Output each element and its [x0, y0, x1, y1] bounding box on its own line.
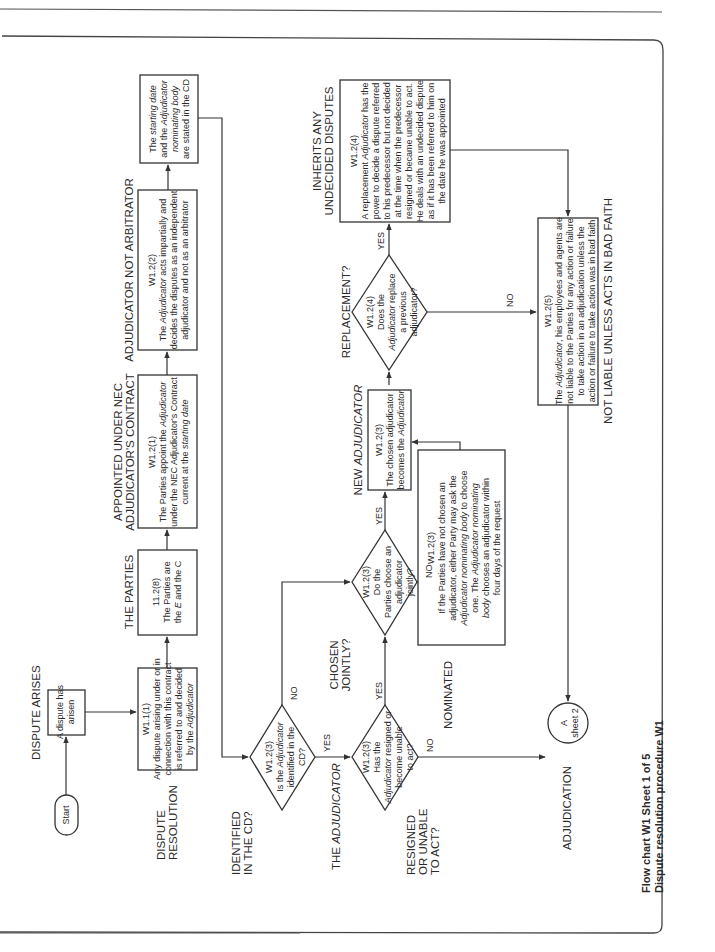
svg-text:adjudicator, either Party may: adjudicator, either Party may ask the — [448, 475, 458, 621]
svg-text:arisen: arisen — [66, 700, 76, 725]
label-inherits: INHERITS ANY UNDECIDED DISPUTES — [311, 86, 335, 215]
label-not-arbitrator: ADJUDICATOR NOT ARBITRATOR — [123, 178, 135, 362]
replacement-no-label: NO — [505, 294, 515, 308]
svg-text:not liable to the Parties for: not liable to the Parties for any action… — [565, 218, 575, 404]
svg-text:The chosen adjudicator: The chosen adjudicator — [385, 393, 395, 487]
w1-2-4-text: W1.2(4) A replacement Adjudicator has th… — [349, 80, 447, 222]
svg-text:JOINTLY?: JOINTLY? — [340, 639, 352, 692]
top-page-rule — [0, 9, 662, 12]
svg-text:W1.2(1): W1.2(1) — [147, 436, 157, 468]
svg-text:W1.2(3): W1.2(3) — [374, 424, 384, 456]
svg-text:W1.2(5): W1.2(5) — [543, 295, 553, 327]
svg-text:The starting date: The starting date — [148, 85, 158, 153]
svg-text:He deals with an undecided dis: He deals with an undecided dispute — [415, 80, 425, 222]
jointly-no-label: NO — [424, 565, 434, 579]
svg-text:adjudicator: adjudicator — [394, 560, 404, 604]
svg-text:and the Adjudicator: and the Adjudicator — [159, 79, 169, 158]
svg-text:TO ACT?: TO ACT? — [429, 827, 441, 875]
label-nominated: NOMINATED — [442, 661, 454, 729]
svg-text:the date he was appointed: the date he was appointed — [437, 98, 447, 204]
svg-text:Adjudicator resigned or: Adjudicator resigned or — [383, 711, 393, 805]
svg-text:becomes the Adjudicator: becomes the Adjudicator — [396, 389, 406, 489]
svg-text:A dispute has: A dispute has — [55, 684, 65, 739]
svg-text:under the NEC Adjudicator's Co: under the NEC Adjudicator's Contract — [169, 377, 179, 527]
svg-text:by the Adjudicator: by the Adjudicator — [185, 682, 195, 755]
svg-text:Any dispute arising under or i: Any dispute arising under or in — [152, 658, 162, 780]
svg-text:CHOSEN: CHOSEN — [328, 640, 340, 689]
svg-text:IN THE CD?: IN THE CD? — [242, 811, 254, 875]
svg-text:adjudicator and not as an arbi: adjudicator and not as an arbitrator — [180, 200, 190, 340]
svg-text:A replacement Adjudicator has: A replacement Adjudicator has the — [360, 82, 370, 219]
label-resigned: RESIGNED OR UNABLE TO ACT? — [405, 808, 441, 875]
svg-text:Dispute resolution procedure W: Dispute resolution procedure W1 — [653, 720, 665, 893]
resigned-no-label: NO — [425, 739, 435, 753]
identified-no-label: NO — [289, 687, 299, 701]
label-the-parties: THE PARTIES — [123, 555, 135, 630]
svg-text:are stated in the CD: are stated in the CD — [181, 78, 191, 159]
svg-text:W1.2(3): W1.2(3) — [426, 532, 436, 564]
diamond-resigned-text: W1.2(3) Has the Adjudicator resigned or … — [361, 711, 415, 805]
svg-text:The Adjudicator acts impartial: The Adjudicator acts impartially and — [158, 199, 168, 342]
svg-text:W1.2(2): W1.2(2) — [147, 254, 157, 286]
svg-text:RESOLUTION: RESOLUTION — [167, 785, 179, 860]
connector-nominated-to-new — [412, 442, 460, 450]
svg-text:to his predecessor but not dec: to his predecessor but not decided — [382, 82, 392, 220]
svg-text:A: A — [559, 720, 569, 726]
svg-text:CD?: CD? — [297, 748, 307, 766]
svg-text:IDENTIFIED: IDENTIFIED — [230, 811, 242, 875]
svg-text:adjudicator?: adjudicator? — [409, 287, 419, 336]
svg-text:body chooses an adjudicator wi: body chooses an adjudicator within — [481, 478, 491, 618]
svg-text:W1.2(3): W1.2(3) — [361, 741, 371, 773]
svg-text:connection with this contract: connection with this contract — [163, 662, 173, 776]
svg-text:The Adjudicator, his employees: The Adjudicator, his employees and agent… — [554, 217, 564, 405]
svg-text:W1.2(3): W1.2(3) — [264, 741, 274, 773]
svg-text:OR UNABLE: OR UNABLE — [417, 808, 429, 875]
connector-w124-to-w125 — [450, 150, 568, 216]
connector-cd-to-identified — [198, 118, 248, 757]
svg-text:If the Parties have not chosen: If the Parties have not chosen an — [437, 482, 447, 614]
svg-text:W1.2(4): W1.2(4) — [365, 296, 375, 328]
svg-text:Adjudicator nominating body to: Adjudicator nominating body to choose — [459, 470, 469, 626]
svg-text:Parties choose an: Parties choose an — [383, 546, 393, 618]
svg-text:current at the starting date: current at the starting date — [180, 399, 190, 504]
label-adjudication: ADJUDICATION — [561, 766, 573, 850]
svg-text:four days of the request: four days of the request — [492, 500, 502, 595]
svg-text:power to decide a dispute refe: power to decide a dispute referred — [371, 83, 381, 220]
label-new-adjudicator: NEW ADJUDICATOR — [352, 385, 364, 496]
w1-2-3-nominated-text: W1.2(3) If the Parties have not chosen a… — [426, 470, 502, 626]
svg-text:11.2(8): 11.2(8) — [151, 578, 161, 606]
svg-text:W1.2(3): W1.2(3) — [361, 566, 371, 598]
figure-caption: Flow chart W1 Sheet 1 of 5 Dispute resol… — [640, 720, 665, 893]
svg-text:Is the Adjudicator: Is the Adjudicator — [275, 721, 285, 792]
svg-text:identified in the: identified in the — [286, 727, 296, 788]
jointly-yes-label: YES — [374, 507, 384, 525]
svg-text:RESIGNED: RESIGNED — [405, 815, 417, 875]
label-replacement: REPLACEMENT? — [340, 266, 352, 359]
svg-text:to act?: to act? — [405, 743, 415, 770]
svg-text:decides the disputes as an ind: decides the disputes as an independent — [169, 190, 179, 349]
svg-text:is referred to and decided: is referred to and decided — [174, 668, 184, 770]
svg-text:DISPUTE: DISPUTE — [155, 810, 167, 860]
svg-text:INHERITS ANY: INHERITS ANY — [311, 111, 323, 191]
svg-text:Do the: Do the — [372, 569, 382, 596]
svg-text:jointly?: jointly? — [405, 568, 415, 597]
svg-text:the E and the C: the E and the C — [173, 560, 183, 623]
svg-text:as if it has been referred to: as if it has been referred to him on — [426, 83, 436, 220]
start-label: Start — [61, 805, 71, 825]
svg-text:sheet 2: sheet 2 — [570, 708, 580, 738]
resigned-yes-label: YES — [374, 682, 384, 700]
label-appointed: APPOINTED UNDER NEC ADJUDICATOR'S CONTRA… — [112, 373, 136, 531]
svg-text:UNDECIDED DISPUTES: UNDECIDED DISPUTES — [323, 86, 335, 215]
svg-text:W1.1(1): W1.1(1) — [141, 703, 151, 735]
svg-text:Flow chart W1 Sheet 1 of 5: Flow chart W1 Sheet 1 of 5 — [640, 754, 652, 893]
flowchart-diagram: Start A dispute has arisen DISPUTE ARISE… — [0, 0, 715, 952]
label-chosen-jointly: CHOSEN JOINTLY? — [328, 639, 352, 692]
svg-text:APPOINTED UNDER NEC: APPOINTED UNDER NEC — [112, 383, 124, 521]
svg-text:become unable: become unable — [394, 726, 404, 788]
label-the-adjudicator: THE ADJUDICATOR — [330, 763, 342, 870]
svg-text:W1.2(4): W1.2(4) — [349, 135, 359, 167]
label-not-liable: NOT LIABLE UNLESS ACTS IN BAD FAITH — [602, 198, 614, 424]
label-dispute-arises: DISPUTE ARISES — [30, 665, 42, 760]
replacement-yes-label: YES — [376, 232, 386, 250]
svg-text:one. The Adjudicator nominatin: one. The Adjudicator nominating — [470, 483, 480, 612]
